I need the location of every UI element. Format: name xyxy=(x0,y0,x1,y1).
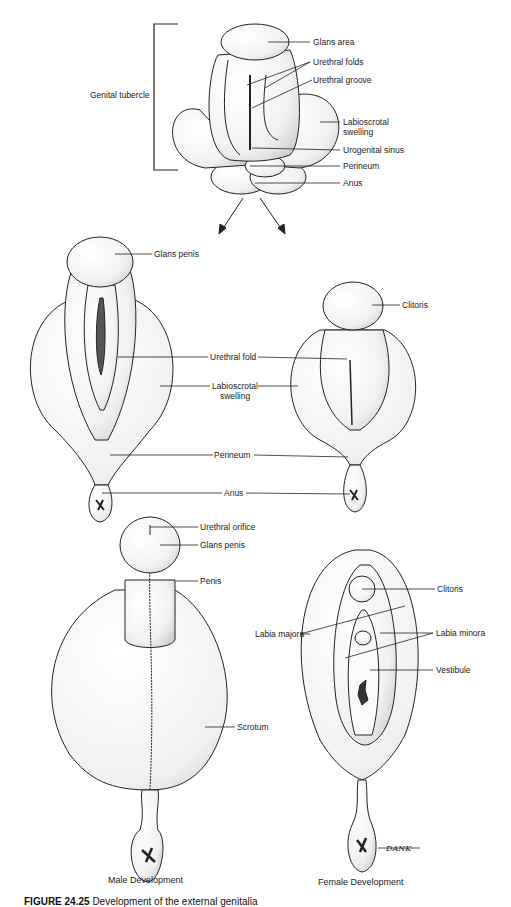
female-development-title: Female Development xyxy=(318,877,404,887)
label-anus-intermediate: Anus xyxy=(224,488,243,498)
label-labia-minora: Labia minora xyxy=(436,628,485,638)
male-development-title: Male Development xyxy=(108,875,183,885)
label-perineum-top: Perineum xyxy=(343,161,379,171)
label-labia-majora: Labia majora xyxy=(255,629,304,639)
label-glans-area: Glans area xyxy=(313,37,355,47)
indifferent-stage-drawing xyxy=(154,24,339,194)
direction-arrows xyxy=(219,198,285,234)
label-anus-top: Anus xyxy=(343,178,362,188)
label-clitoris-intermediate: Clitoris xyxy=(402,300,428,310)
label-urethral-orifice: Urethral orifice xyxy=(200,522,255,532)
label-genital-tubercle: Genital tubercle xyxy=(90,90,150,100)
artist-signature: DANK xyxy=(386,844,411,853)
label-glans-penis-final: Glans penis xyxy=(200,540,245,550)
label-urethral-fold: Urethral fold xyxy=(210,352,256,362)
final-male-drawing xyxy=(52,517,228,882)
label-clitoris-final: Clitoris xyxy=(437,584,463,594)
bracket xyxy=(154,24,178,170)
label-labioscrotal-swelling-top: Labioscrotal swelling xyxy=(343,117,403,137)
final-female-drawing xyxy=(301,550,418,872)
label-glans-penis-intermediate: Glans penis xyxy=(154,249,199,259)
label-perineum-intermediate: Perineum xyxy=(214,450,250,460)
figure-number: FIGURE 24.25 xyxy=(24,896,90,907)
label-scrotum: Scrotum xyxy=(237,722,269,732)
label-urogenital-sinus: Urogenital sinus xyxy=(343,145,404,155)
label-penis: Penis xyxy=(200,576,221,586)
label-labioscrotal-swelling-intermediate: Labioscrotal swelling xyxy=(212,381,258,401)
label-vestibule: Vestibule xyxy=(436,665,471,675)
intermediate-male-drawing xyxy=(30,237,173,522)
figure-caption-text: Development of the external genitalia xyxy=(92,896,257,907)
figure-caption: FIGURE 24.25 Development of the external… xyxy=(24,896,257,907)
label-urethral-groove: Urethral groove xyxy=(313,75,372,85)
label-urethral-folds: Urethral folds xyxy=(313,57,364,67)
intermediate-female-drawing xyxy=(291,282,416,512)
